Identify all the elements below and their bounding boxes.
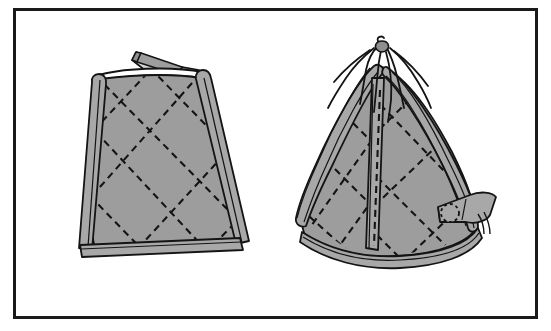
- page-background: [0, 0, 551, 331]
- grommet-button: [441, 204, 459, 222]
- figure-svg: [0, 0, 551, 331]
- illustration-canvas: Quilted tapered bag cover - two views Ta…: [0, 0, 551, 331]
